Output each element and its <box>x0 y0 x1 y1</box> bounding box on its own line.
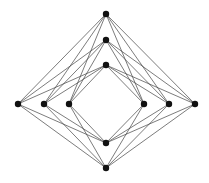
edge-a1-b1 <box>18 14 106 104</box>
edge-a3-b6 <box>106 65 195 104</box>
node-b4 <box>141 101 147 107</box>
edge-a2-b5 <box>106 40 169 104</box>
node-b5 <box>166 101 172 107</box>
edge-a4-b4 <box>106 104 144 143</box>
edge-a2-b4 <box>106 40 144 104</box>
edge-a1-b6 <box>106 14 195 104</box>
node-b6 <box>192 101 198 107</box>
edge-a3-b5 <box>106 65 169 104</box>
edge-a3-b1 <box>18 65 106 104</box>
node-b2 <box>41 101 47 107</box>
edge-a2-b6 <box>106 40 195 104</box>
edge-a5-b2 <box>44 104 106 168</box>
node-b3 <box>66 101 72 107</box>
edge-a5-b4 <box>106 104 144 168</box>
node-b1 <box>15 101 21 107</box>
edge-a4-b1 <box>18 104 106 143</box>
node-a5 <box>103 165 109 171</box>
edge-a1-b5 <box>106 14 169 104</box>
edge-a1-b2 <box>44 14 106 104</box>
edge-a5-b5 <box>106 104 169 168</box>
edge-a5-b6 <box>106 104 195 168</box>
node-a3 <box>103 62 109 68</box>
edge-a2-b2 <box>44 40 106 104</box>
node-a2 <box>103 37 109 43</box>
edge-a2-b1 <box>18 40 106 104</box>
node-a4 <box>103 140 109 146</box>
node-a1 <box>103 11 109 17</box>
bipartite-graph-diagram <box>0 0 209 183</box>
edge-a4-b6 <box>106 104 195 143</box>
nodes <box>15 11 198 171</box>
edge-a3-b4 <box>106 65 144 104</box>
edge-a5-b1 <box>18 104 106 168</box>
edge-a4-b5 <box>106 104 169 143</box>
